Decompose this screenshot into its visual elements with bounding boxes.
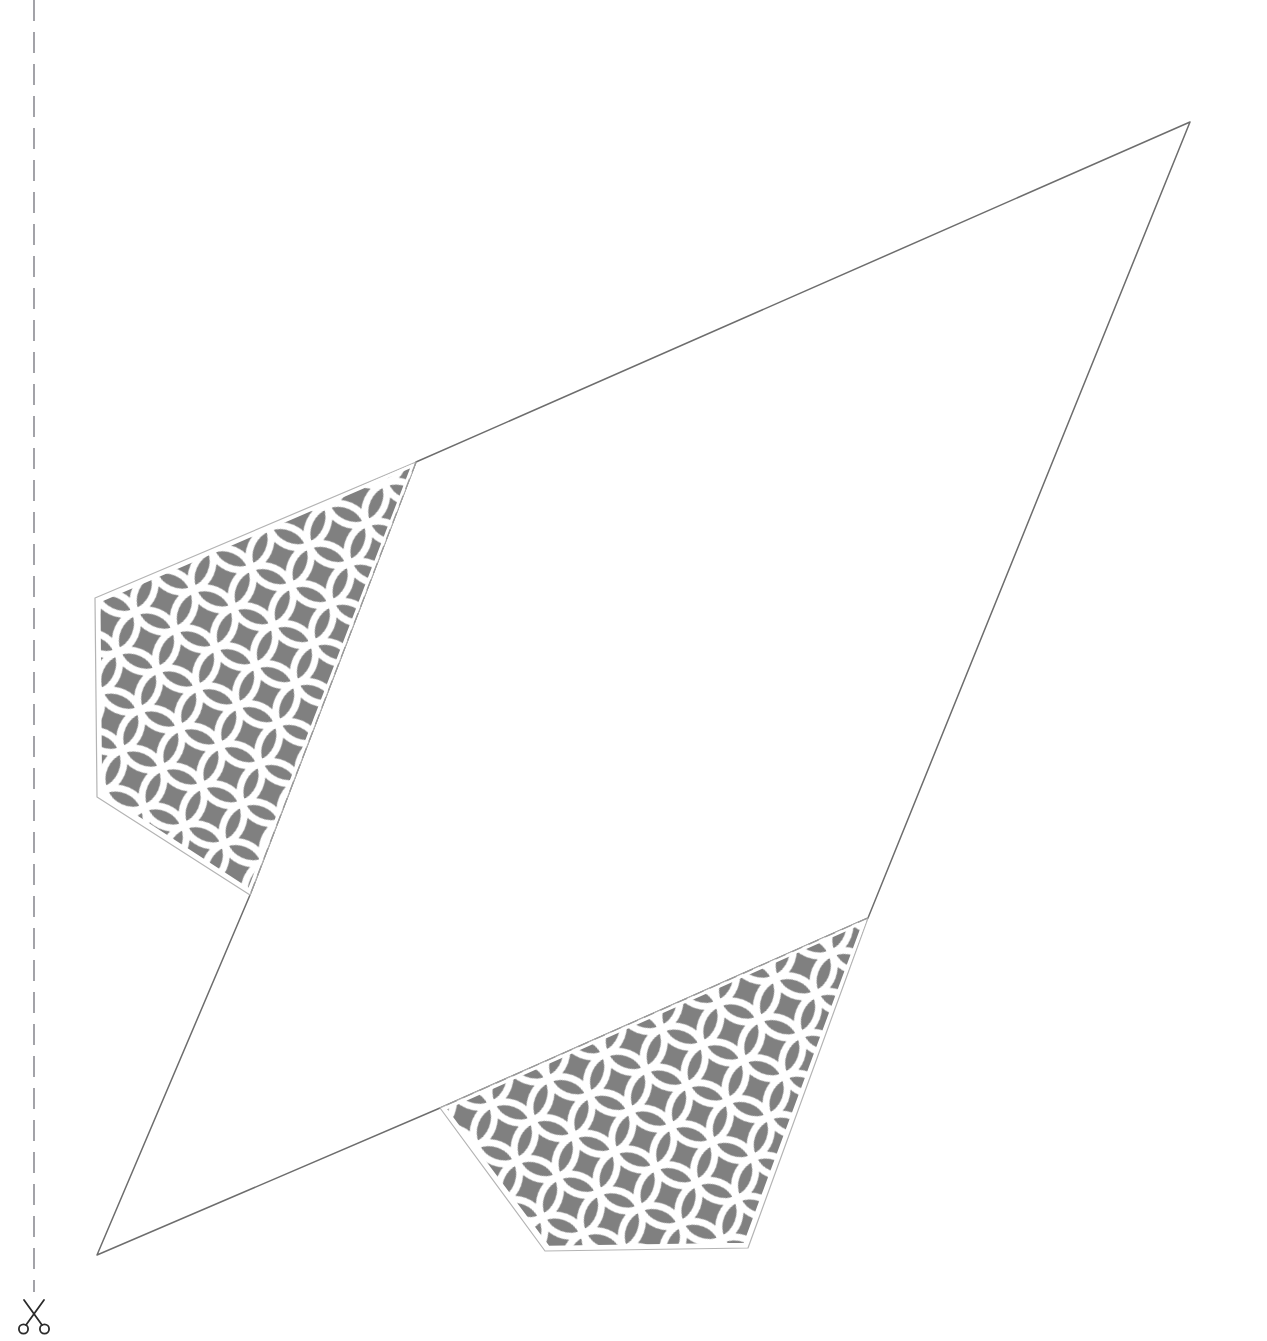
template-artboard (0, 0, 1267, 1341)
template-sheet (0, 0, 1267, 1341)
